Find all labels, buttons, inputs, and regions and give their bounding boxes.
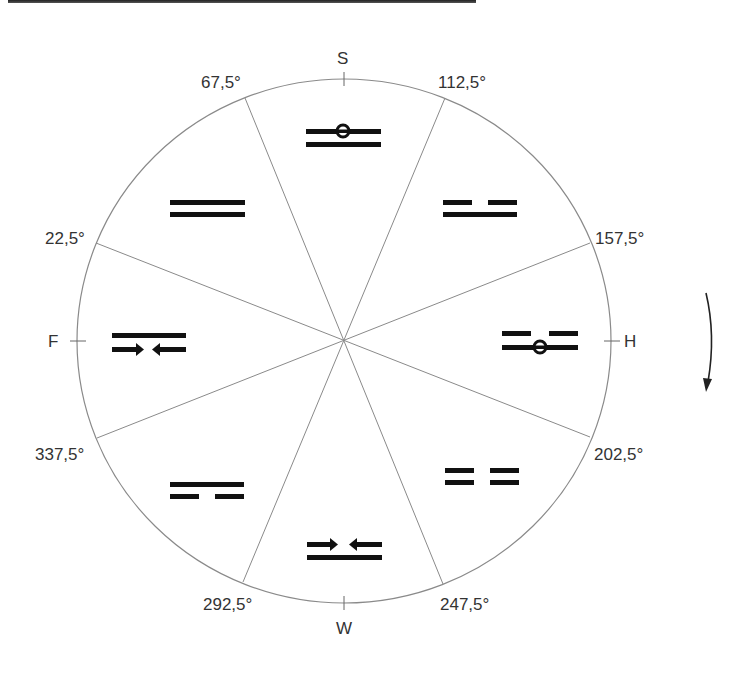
- sector-symbol-lower-left: [170, 482, 244, 499]
- angle-label-157-5: 157,5°: [595, 230, 644, 247]
- sector-symbol-bottom: [307, 538, 382, 560]
- sector-symbol-top: [306, 125, 381, 147]
- sector-symbol-left: [112, 333, 186, 356]
- arrow-right-icon: [136, 343, 144, 356]
- angle-label-292-5: 292,5°: [203, 596, 252, 613]
- sector-symbol-right: [502, 331, 578, 353]
- angle-label-112-5: 112,5°: [438, 74, 486, 91]
- direction-label-left: F: [48, 333, 58, 350]
- sector-symbol-upper-left: [170, 200, 245, 217]
- direction-label-bottom: W: [336, 620, 352, 637]
- arrow-right-icon: [330, 538, 338, 551]
- angle-label-202-5: 202,5°: [594, 446, 643, 463]
- sector-dividers: [96, 98, 590, 584]
- angle-label-247-5: 247,5°: [440, 596, 489, 613]
- direction-label-top: S: [337, 50, 348, 67]
- arrow-left-icon: [349, 538, 357, 551]
- sector-symbol-lower-right: [445, 468, 519, 485]
- sector-symbol-upper-right: [443, 200, 517, 217]
- angle-label-337-5: 337,5°: [35, 446, 84, 463]
- angle-label-22-5: 22,5°: [45, 230, 85, 247]
- angle-label-67-5: 67,5°: [201, 74, 241, 91]
- arrow-left-icon: [152, 343, 160, 356]
- direction-label-right: H: [624, 333, 636, 350]
- rotation-arrow-icon: [703, 293, 712, 392]
